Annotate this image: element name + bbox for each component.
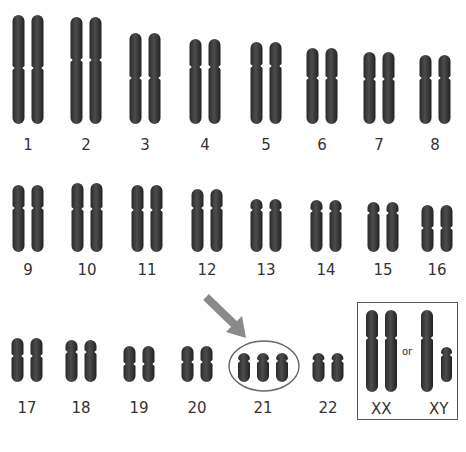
chromatid [330,200,342,252]
chromatid [276,353,288,382]
chromatid [192,189,204,252]
chromosome-10 [72,183,103,252]
chromosome-label-18: 18 [61,399,101,417]
chromatid [313,353,325,382]
chromosome-5 [251,42,282,124]
chromosome-label-15: 15 [363,261,403,279]
chromosome-label-6: 6 [302,136,342,154]
chromosome-17 [12,338,43,382]
chromosome-label-1: 1 [8,136,48,154]
chromatid [72,183,84,252]
chromosome-label-9: 9 [8,261,48,279]
chromosome-11 [132,185,163,252]
chromosome-label-7: 7 [359,136,399,154]
chromosome-19 [124,346,155,382]
chromosome-20 [182,346,213,382]
chromosome-label-13: 13 [246,261,286,279]
chromatid [132,185,144,252]
chromosome-3 [130,33,161,124]
chromosome-9 [13,185,44,252]
chromatid [13,15,25,124]
chromatid [149,33,161,124]
chromatid [209,39,221,124]
xx-label: XX [371,400,392,418]
chromatid [238,353,250,382]
chromatid [251,199,263,252]
chromatid [332,353,344,382]
chromosome-label-4: 4 [185,136,225,154]
chromatid [270,199,282,252]
chromatid [85,340,97,382]
chromatid [66,340,78,382]
chromatid [12,338,24,382]
chromatid [13,185,25,252]
or-label: or [402,346,412,357]
chromosome-15 [368,202,399,252]
chromosome-label-16: 16 [417,261,457,279]
chromosome-13 [251,199,282,252]
chromatid [32,15,44,124]
chromatid [251,42,263,124]
chromatid [270,42,282,124]
chromatid [190,39,202,124]
chromosome-8 [420,55,451,124]
chromosome-label-20: 20 [177,399,217,417]
chromatid [201,346,213,382]
chromatid [420,55,432,124]
chromosome-7 [364,52,395,124]
chromosome-label-11: 11 [127,261,167,279]
chromosome-16 [422,205,453,252]
chromosome-label-12: 12 [187,261,227,279]
chromatid [439,55,451,124]
chromosome-2 [71,17,102,124]
chromosome-label-5: 5 [246,136,286,154]
chromatid [383,52,395,124]
chromatid [31,338,43,382]
chromatid [326,48,338,124]
chromosome-6 [307,48,338,124]
chromosome-label-21: 21 [243,399,283,417]
chromosome-1 [13,15,44,124]
chromatid [182,346,194,382]
chromosome-label-19: 19 [119,399,159,417]
chromatid [151,185,163,252]
chromatid [91,183,103,252]
xy-label: XY [429,400,448,418]
chromosome-18 [66,340,97,382]
chromatid [387,202,399,252]
chromatid [90,17,102,124]
chromosome-22 [313,353,344,382]
chromosome-label-3: 3 [125,136,165,154]
chromosome-label-10: 10 [67,261,107,279]
chromatid [130,33,142,124]
chromatid [71,17,83,124]
arrow-icon [206,297,246,338]
chromosome-4 [190,39,221,124]
chromosome-label-17: 17 [7,399,47,417]
chromosome-21 [238,353,288,382]
chromatid [32,185,44,252]
chromosome-12 [192,189,223,252]
chromatid [441,205,453,252]
karyotype-figure: 12345678910111213141516171819202122 or X… [0,0,466,452]
chromatid [368,202,380,252]
chromatid [257,353,269,382]
chromatid [143,346,155,382]
chromosome-label-8: 8 [415,136,455,154]
chromatid [311,200,323,252]
chromatid [211,189,223,252]
chromatid [364,52,376,124]
chromatid [124,346,136,382]
chromosome-label-2: 2 [66,136,106,154]
chromatid [307,48,319,124]
chromosome-label-22: 22 [308,399,348,417]
chromosome-label-14: 14 [306,261,346,279]
chromatid [422,205,434,252]
chromosome-14 [311,200,342,252]
